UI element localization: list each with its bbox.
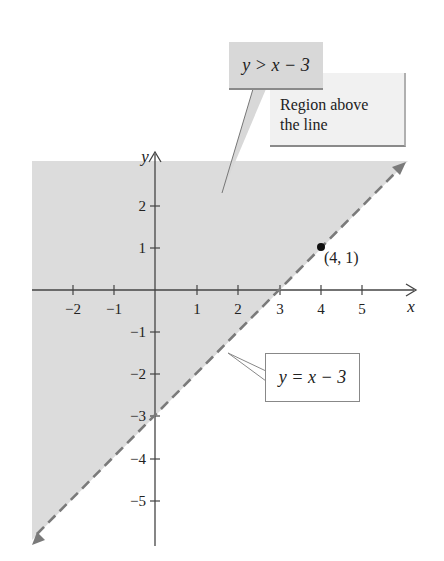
y-tick-label: −2 — [130, 366, 146, 382]
x-tick-label: 5 — [358, 301, 366, 317]
x-tick-label: 4 — [317, 301, 325, 317]
y-axis-label: y — [139, 147, 149, 166]
point-label: (4, 1) — [324, 249, 359, 267]
boundary-label: y = x − 3 — [279, 367, 346, 388]
boundary-callout-pointer — [228, 353, 266, 381]
boundary-annotation: y = x − 3 — [265, 353, 360, 402]
x-tick-label: −1 — [106, 301, 122, 317]
inequality-annotation: y > x − 3 — [229, 42, 323, 90]
y-tick-label: −3 — [130, 408, 146, 424]
y-tick-label: −4 — [130, 451, 146, 467]
y-tick-label: −1 — [130, 324, 146, 340]
x-tick-label: 1 — [193, 301, 201, 317]
x-tick-label: 2 — [234, 301, 242, 317]
x-tick-label: 3 — [276, 301, 284, 317]
region-label-line1: Region above — [280, 95, 404, 115]
region-label-line2: the line — [280, 115, 404, 135]
x-axis-label: x — [406, 297, 415, 316]
y-tick-label: −5 — [130, 493, 146, 509]
x-tick-label: −2 — [65, 301, 81, 317]
y-tick-label: 1 — [139, 240, 147, 256]
inequality-label: y > x − 3 — [242, 55, 309, 76]
y-tick-label: 2 — [139, 198, 147, 214]
